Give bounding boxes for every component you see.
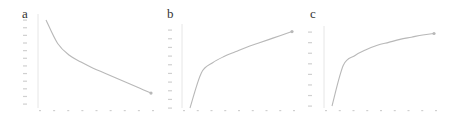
x-tick-label: [138, 110, 140, 111]
y-tick-label: [23, 50, 27, 51]
chart-c: [300, 0, 451, 117]
x-tick-label: [96, 110, 98, 111]
panel-b: b: [150, 0, 305, 117]
end-point-marker: [290, 30, 293, 33]
series-line: [46, 20, 151, 93]
y-tick-label: [168, 90, 172, 91]
x-tick-label: [81, 110, 83, 111]
y-tick-label: [168, 38, 172, 39]
x-tick-label: [53, 110, 55, 111]
y-tick-label: [308, 74, 312, 75]
y-tick-label: [23, 96, 27, 97]
panel-c: c: [300, 0, 451, 117]
x-tick-label: [252, 110, 254, 111]
series-line: [190, 32, 292, 108]
x-tick-label: [380, 110, 382, 111]
y-tick-label: [23, 20, 27, 21]
y-tick-label: [23, 104, 27, 105]
y-tick-label: [168, 73, 172, 74]
y-tick-label: [168, 30, 172, 31]
y-tick-label: [308, 32, 312, 33]
y-tick-label: [308, 84, 312, 85]
y-tick-label: [308, 42, 312, 43]
y-tick-label: [23, 35, 27, 36]
x-tick-label: [110, 110, 112, 111]
y-tick-label: [168, 108, 172, 109]
x-tick-label: [224, 110, 226, 111]
x-tick-label: [339, 110, 341, 111]
x-tick-label: [408, 110, 410, 111]
x-tick-label: [293, 110, 295, 111]
y-tick-label: [23, 27, 27, 28]
y-tick-label: [23, 65, 27, 66]
y-tick-label: [168, 99, 172, 100]
x-tick-label: [353, 110, 355, 111]
x-tick-label: [197, 110, 199, 111]
chart-b: [150, 0, 305, 117]
panel-a: a: [0, 0, 155, 117]
end-point-marker: [432, 32, 435, 35]
series-line: [332, 33, 434, 106]
x-tick-label: [435, 110, 437, 111]
y-tick-label: [168, 64, 172, 65]
x-tick-label: [279, 110, 281, 111]
x-tick-label: [421, 110, 423, 111]
y-tick-label: [308, 106, 312, 107]
x-tick-label: [183, 110, 185, 111]
y-tick-label: [308, 53, 312, 54]
y-tick-label: [23, 73, 27, 74]
x-tick-label: [67, 110, 69, 111]
x-tick-label: [394, 110, 396, 111]
y-tick-label: [23, 81, 27, 82]
y-tick-label: [308, 95, 312, 96]
y-tick-label: [168, 82, 172, 83]
x-tick-label: [266, 110, 268, 111]
y-tick-label: [168, 56, 172, 57]
chart-a: [0, 0, 155, 117]
x-tick-label: [238, 110, 240, 111]
y-tick-label: [23, 58, 27, 59]
x-tick-label: [325, 110, 327, 111]
x-tick-label: [124, 110, 126, 111]
y-tick-label: [168, 47, 172, 48]
y-tick-label: [23, 88, 27, 89]
x-tick-label: [211, 110, 213, 111]
x-tick-label: [366, 110, 368, 111]
y-tick-label: [23, 42, 27, 43]
y-tick-label: [308, 63, 312, 64]
x-tick-label: [39, 110, 41, 111]
